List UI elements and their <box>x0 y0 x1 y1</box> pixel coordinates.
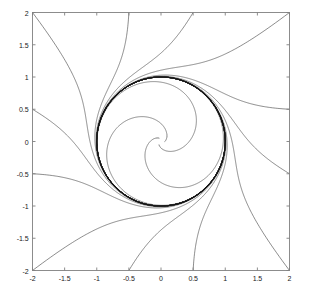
x-tick-label: -0.5 <box>123 275 135 282</box>
phase-portrait-plot <box>0 0 311 298</box>
y-tick-label: -1.5 <box>17 235 29 242</box>
tick-marks <box>33 13 290 271</box>
outer-spiral-2 <box>33 77 226 208</box>
outer-spiral-6 <box>96 13 225 207</box>
y-tick-label: 1.5 <box>19 41 28 48</box>
outer-spiral-8 <box>97 75 290 206</box>
y-tick-label: -0.5 <box>17 170 29 177</box>
y-tick-label: 0 <box>25 138 29 145</box>
y-tick-label: 0.5 <box>19 106 28 113</box>
y-tick-label: 1 <box>25 74 29 81</box>
x-tick-label: -1.5 <box>59 275 71 282</box>
y-tick-label: -2 <box>22 267 28 274</box>
x-tick-label: 2 <box>288 275 292 282</box>
outer-spiral-11 <box>97 77 227 271</box>
x-tick-label: 0.5 <box>188 275 197 282</box>
x-tick-label: 0 <box>159 275 163 282</box>
outer-spiral-3 <box>33 77 226 207</box>
y-tick-label: -1 <box>22 203 28 210</box>
x-tick-label: 1 <box>223 275 227 282</box>
outer-spiral-5 <box>95 13 225 207</box>
x-tick-label: -1 <box>94 275 100 282</box>
outer-spiral-12 <box>97 77 226 271</box>
outer-spiral-9 <box>97 76 290 206</box>
axes-box <box>33 13 290 271</box>
phase-portrait-figure: -2-1.5-1-0.500.511.52 -2-1.5-1-0.500.511… <box>0 0 311 298</box>
x-tick-label: 1.5 <box>253 275 262 282</box>
x-tick-label: -2 <box>29 275 35 282</box>
trajectory-group <box>33 13 290 271</box>
y-tick-label: 2 <box>25 9 29 16</box>
